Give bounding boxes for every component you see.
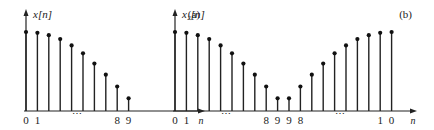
tick-label: 1 [35,114,41,126]
stem-marker [287,96,291,100]
y-axis-arrow-icon [173,9,178,16]
tick-label: 0 [389,114,395,126]
stem-marker [241,62,245,66]
stem-marker [207,37,211,41]
x-axis-label: n [411,115,416,126]
tick-label: ⋯ [72,108,82,119]
stem-marker [310,73,314,77]
stem-marker [253,73,257,77]
stem-marker [298,84,302,88]
x-axis-label: n [199,115,204,126]
stem-marker [104,73,108,77]
panel-a: 01⋯89nx[n](a) [23,8,205,126]
stem-marker [184,31,188,35]
stem-marker [219,43,223,47]
panel-label: (b) [399,8,412,21]
panel-b: 01⋯8998⋯10nx₂[n](b) [172,8,417,126]
y-axis-label: x[n] [32,8,52,20]
y-axis-label: x₂[n] [181,8,205,20]
stem-marker [378,31,382,35]
stem-marker [196,33,200,37]
stem-marker [333,51,337,55]
stem-marker [173,30,177,34]
tick-label: 8 [298,114,304,126]
stem-marker [264,84,268,88]
figure: 01⋯89nx[n](a) 01⋯8998⋯10nx₂[n](b) [0,0,434,130]
stem-marker [115,84,119,88]
stem-marker [127,96,131,100]
tick-label: 1 [184,114,190,126]
stem-marker [276,96,280,100]
tick-label: 9 [286,114,292,126]
stem-marker [70,43,74,47]
stem-marker [24,30,28,34]
tick-label: 1 [377,114,383,126]
stem-marker [344,43,348,47]
stem-marker [390,30,394,34]
stem-marker [35,31,39,35]
x-axis-arrow-icon [410,109,417,114]
stem-marker [47,33,51,37]
stem-marker [58,37,62,41]
stem-marker [321,62,325,66]
tick-label: 8 [263,114,269,126]
tick-label: ⋯ [221,108,231,119]
tick-label: 0 [172,114,178,126]
stem-marker [230,51,234,55]
y-axis-arrow-icon [24,9,29,16]
stem-marker [92,62,96,66]
tick-label: 8 [114,114,120,126]
stem-marker [355,37,359,41]
tick-label: 0 [23,114,29,126]
tick-label: 9 [126,114,132,126]
tick-label: 9 [275,114,281,126]
stem-marker [367,33,371,37]
tick-label: ⋯ [335,108,345,119]
stem-marker [81,51,85,55]
